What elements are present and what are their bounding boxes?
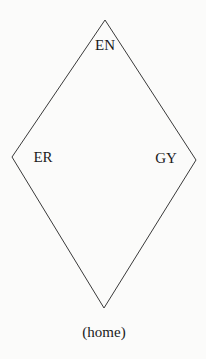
label-right-gy: GY (155, 151, 177, 166)
rhombus-shape (0, 0, 206, 359)
rhombus-diagram: EN ER GY (home) (0, 0, 206, 359)
label-left-er: ER (33, 150, 52, 165)
label-bottom-home: (home) (82, 325, 125, 340)
label-top-en: EN (95, 38, 115, 53)
